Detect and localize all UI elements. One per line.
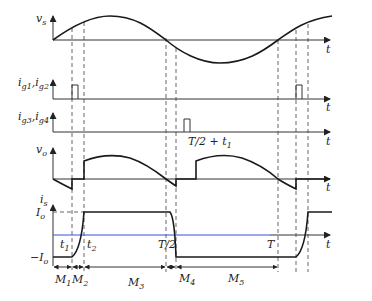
t1-label: t1 — [60, 238, 70, 253]
panel-vs: vs t — [36, 12, 332, 63]
interval-labels: M1 M2 M3 M4 M5 — [54, 272, 244, 291]
ig12-pulse-1 — [72, 85, 78, 99]
waveform-diagram: vs t ig1,ig2 t ig3,ig4 T/2 + t1 t vo t i… — [0, 0, 372, 301]
vo-label: vo — [36, 143, 47, 158]
m5-label: M5 — [227, 272, 244, 287]
ig34-t-label: t — [326, 135, 331, 148]
vs-label: vs — [36, 12, 46, 27]
ig34-annotation: T/2 + t1 — [188, 135, 232, 150]
ig34-label: ig3,ig4 — [18, 110, 49, 125]
ig34-pulse — [184, 119, 190, 132]
panel-vo: vo t — [36, 143, 331, 194]
vo-waveform — [53, 156, 330, 189]
panel-ig34: ig3,ig4 T/2 + t1 t — [18, 110, 331, 150]
vs-t-label: t — [326, 43, 331, 56]
vo-t-label: t — [326, 181, 331, 194]
t2-label: t2 — [87, 238, 97, 253]
period-label: T — [267, 238, 276, 251]
m4-label: M4 — [178, 272, 195, 287]
m2-label: M2 — [71, 273, 88, 288]
panel-ig12: ig1,ig2 t — [18, 76, 331, 114]
ig12-label: ig1,ig2 — [18, 76, 49, 91]
m3-label: M3 — [127, 276, 144, 291]
is-t-label: t — [326, 238, 331, 251]
m1-label: M1 — [54, 273, 71, 288]
panel-is: is Io −Io t1 t2 T/2 T t — [30, 193, 332, 266]
half-period-label: T/2 — [158, 238, 176, 251]
io-pos-label: Io — [35, 206, 45, 221]
io-neg-label: −Io — [30, 251, 49, 266]
is-label: is — [40, 193, 48, 208]
ig12-pulse-2 — [296, 85, 302, 99]
ig12-t-label: t — [326, 101, 331, 114]
